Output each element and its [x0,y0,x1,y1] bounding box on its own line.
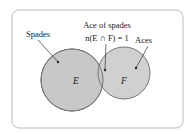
intersection-formula: n(E ∩ F) = 1 [85,33,129,43]
set-e-symbol: E [72,76,79,86]
aces-label: Aces [135,35,152,45]
aces-pointer-dot [135,67,137,69]
intersection-title: Ace of spades [83,20,131,30]
spades-label: Spades [26,29,50,39]
venn-diagram: Spades Aces Ace of spades n(E ∩ F) = 1 E… [0,0,190,134]
spades-pointer-dot [57,61,59,63]
set-f-symbol: F [120,76,127,86]
intersection-pointer-dot [104,69,106,71]
